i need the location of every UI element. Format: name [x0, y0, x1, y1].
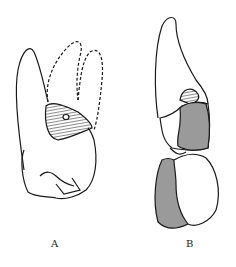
panel-label-a: A	[51, 238, 58, 249]
panel-b-drawing	[155, 18, 218, 229]
diagram-drawing	[0, 0, 236, 267]
panel-a-drawing	[16, 42, 102, 199]
panel-label-b: B	[186, 238, 193, 249]
